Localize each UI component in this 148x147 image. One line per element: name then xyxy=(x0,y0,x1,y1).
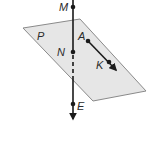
label-m: M xyxy=(59,1,69,13)
label-a: A xyxy=(77,30,85,42)
point-m xyxy=(71,5,76,10)
point-a xyxy=(86,39,91,44)
point-k xyxy=(107,60,112,65)
label-p: P xyxy=(37,30,45,42)
geometry-diagram: M P N A K E xyxy=(0,0,148,147)
diagram-canvas: M P N A K E xyxy=(0,0,148,147)
label-n: N xyxy=(57,46,65,58)
point-e xyxy=(71,102,76,107)
point-n xyxy=(71,50,76,55)
label-e: E xyxy=(77,100,85,112)
label-k: K xyxy=(96,59,104,71)
